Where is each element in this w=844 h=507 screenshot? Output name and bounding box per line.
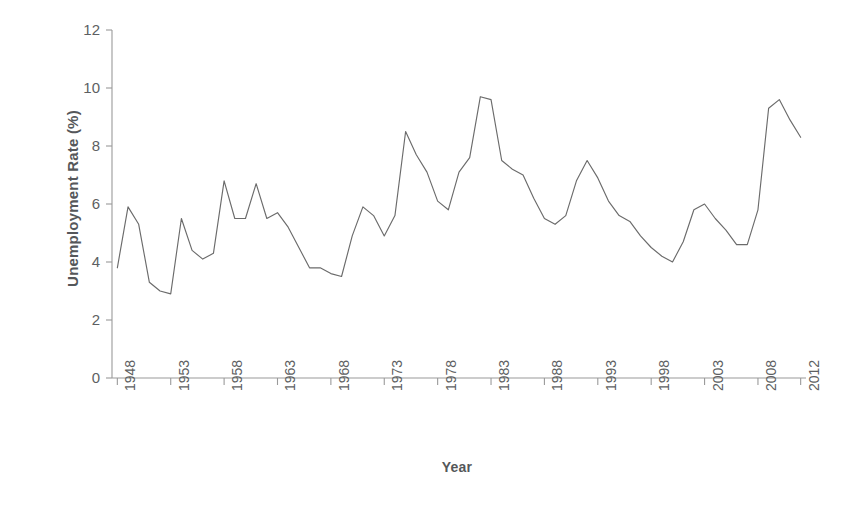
y-tick-label: 0 (56, 370, 100, 385)
unemployment-rate-chart: Unemployment Rate (%) Year 024681012 194… (0, 0, 844, 507)
x-tick-label: 1983 (497, 360, 511, 391)
x-tick-label: 2008 (764, 360, 778, 391)
x-tick-label: 1953 (177, 360, 191, 391)
x-tick-label: 1948 (123, 360, 137, 391)
x-tick-label: 1998 (657, 360, 671, 391)
x-tick-label: 1978 (444, 360, 458, 391)
x-tick-label: 1958 (230, 360, 244, 391)
y-tick-label: 12 (56, 22, 100, 37)
unemployment-rate-line (117, 97, 800, 294)
figure-caption (0, 487, 844, 507)
x-tick-label: 1963 (283, 360, 297, 391)
x-tick-label: 1993 (604, 360, 618, 391)
y-tick-label: 4 (56, 254, 100, 269)
y-tick-label: 2 (56, 312, 100, 327)
x-tick-label: 1973 (390, 360, 404, 391)
y-tick-marks (106, 30, 112, 378)
plot-area (0, 0, 844, 507)
y-tick-label: 6 (56, 196, 100, 211)
x-tick-label: 1968 (337, 360, 351, 391)
x-tick-label: 2012 (807, 360, 821, 391)
y-tick-label: 8 (56, 138, 100, 153)
x-tick-label: 1988 (550, 360, 564, 391)
y-tick-label: 10 (56, 80, 100, 95)
x-tick-label: 2003 (711, 360, 725, 391)
x-tick-marks (117, 378, 800, 385)
